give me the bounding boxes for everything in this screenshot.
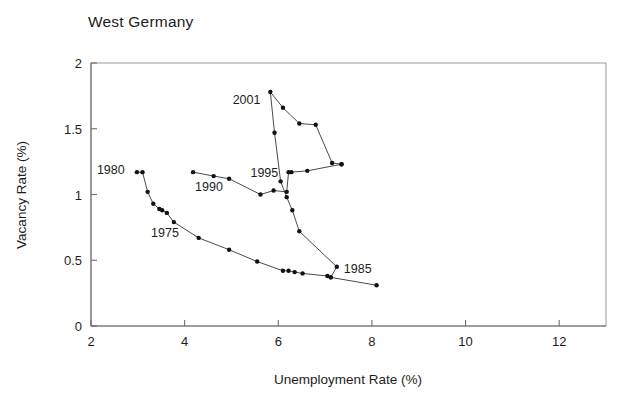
data-point xyxy=(335,265,339,269)
data-point xyxy=(211,174,215,178)
data-point xyxy=(135,170,139,174)
beveridge-curve-plot: 24681012 00.511.52 198019751990199520011… xyxy=(0,0,638,403)
point-label-1980: 1980 xyxy=(97,163,125,177)
y-tick-label: 0 xyxy=(75,319,82,334)
x-axis-title: Unemployment Rate (%) xyxy=(274,372,422,387)
y-axis-title: Vacancy Rate (%) xyxy=(14,141,29,249)
y-tick-label: 1.5 xyxy=(64,122,82,137)
data-point xyxy=(278,179,282,183)
data-point xyxy=(285,195,289,199)
data-point xyxy=(292,270,296,274)
point-label-1990: 1990 xyxy=(195,180,223,194)
point-label-2001: 2001 xyxy=(233,93,261,107)
data-point xyxy=(165,211,169,215)
data-point xyxy=(145,190,149,194)
data-markers-group xyxy=(135,90,379,288)
data-point xyxy=(297,229,301,233)
data-point xyxy=(281,106,285,110)
data-point xyxy=(290,208,294,212)
axis-ticks xyxy=(91,63,559,326)
x-tick-label: 12 xyxy=(552,334,566,349)
data-point xyxy=(305,169,309,173)
x-tick-label: 4 xyxy=(181,334,188,349)
data-point xyxy=(151,202,155,206)
y-tick-label: 1 xyxy=(75,188,82,203)
point-label-1995: 1995 xyxy=(250,166,278,180)
y-tick-label: 2 xyxy=(75,56,82,71)
data-point xyxy=(314,123,318,127)
y-tick-label: 0.5 xyxy=(64,253,82,268)
x-tick-label: 2 xyxy=(87,334,94,349)
data-point xyxy=(191,170,195,174)
data-point xyxy=(374,283,378,287)
data-point xyxy=(227,177,231,181)
data-point xyxy=(285,190,289,194)
y-tick-labels: 00.511.52 xyxy=(64,56,82,334)
x-tick-label: 8 xyxy=(368,334,375,349)
data-point xyxy=(272,130,276,134)
data-point xyxy=(281,269,285,273)
data-series-group xyxy=(137,92,377,285)
data-point xyxy=(255,259,259,263)
point-label-1985: 1985 xyxy=(344,262,372,276)
data-point xyxy=(271,188,275,192)
x-tick-label: 6 xyxy=(275,334,282,349)
data-point xyxy=(329,275,333,279)
data-point xyxy=(227,248,231,252)
data-point xyxy=(268,90,272,94)
data-point xyxy=(289,170,293,174)
data-point xyxy=(330,161,334,165)
data-point xyxy=(140,170,144,174)
point-label-1975: 1975 xyxy=(151,226,179,240)
data-point xyxy=(196,236,200,240)
figure-container: West Germany 24681012 00.511.52 19801975… xyxy=(0,0,638,403)
data-point xyxy=(300,271,304,275)
x-tick-labels: 24681012 xyxy=(87,334,566,349)
data-point xyxy=(258,192,262,196)
data-point xyxy=(286,269,290,273)
data-point xyxy=(172,220,176,224)
series-line-1 xyxy=(270,92,341,277)
data-point xyxy=(339,162,343,166)
x-tick-label: 10 xyxy=(458,334,472,349)
data-point xyxy=(160,208,164,212)
data-point xyxy=(297,121,301,125)
plot-frame xyxy=(91,63,606,326)
point-annotations: 198019751990199520011985 xyxy=(97,93,372,275)
